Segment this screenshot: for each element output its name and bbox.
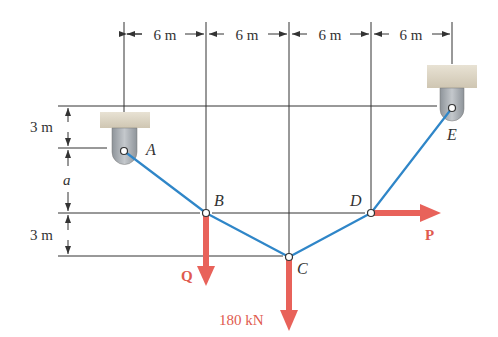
arrow-q-icon xyxy=(197,266,215,286)
joints xyxy=(121,105,456,261)
force-label-p: P xyxy=(425,227,434,243)
cable xyxy=(124,108,452,257)
force-label-180kn: 180 kN xyxy=(219,312,264,328)
dim-label-a: a xyxy=(63,172,71,188)
dim-label-de: 6 m xyxy=(400,27,423,43)
force-label-q: Q xyxy=(181,268,193,284)
dim-label-ab: 6 m xyxy=(154,27,177,43)
arrow-p-icon xyxy=(420,204,441,222)
support-a-icon xyxy=(100,112,150,165)
pin-e-icon xyxy=(449,105,456,112)
support-e-icon xyxy=(427,65,477,121)
label-a: A xyxy=(145,141,156,158)
label-e: E xyxy=(446,126,457,143)
label-b: B xyxy=(214,192,224,209)
dim-label-cd: 6 m xyxy=(319,27,342,43)
cable-diagram: 6 m 6 m 6 m 6 m 3 m a 3 m xyxy=(0,0,498,337)
joint-c-icon xyxy=(286,254,293,261)
dim-label-bc: 6 m xyxy=(236,27,259,43)
joint-b-icon xyxy=(203,210,210,217)
pin-a-icon xyxy=(121,148,128,155)
joint-d-icon xyxy=(368,210,375,217)
dim-label-top-3m: 3 m xyxy=(30,119,53,135)
arrow-180kn-icon xyxy=(280,310,298,331)
label-c: C xyxy=(297,260,308,277)
label-d: D xyxy=(349,192,362,209)
dim-label-bottom-3m: 3 m xyxy=(30,227,53,243)
